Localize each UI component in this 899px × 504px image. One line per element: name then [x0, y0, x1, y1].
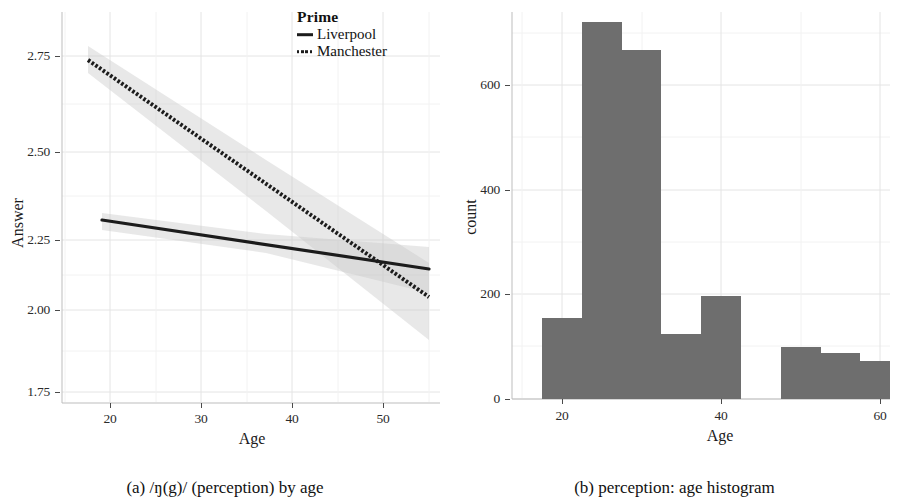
legend-item-liverpool[interactable]: Liverpool: [297, 26, 387, 43]
histogram-bar-30-35[interactable]: [661, 334, 701, 399]
legend-label-manchester: Manchester: [317, 43, 387, 60]
histogram-bar-55-60[interactable]: [860, 361, 890, 399]
panel-a-xtick-mark-1: [110, 403, 111, 408]
panel-a-ci-band-manchester: [88, 46, 429, 340]
panel-a-xtick-mark-2: [201, 403, 202, 408]
histogram-bar-50-55[interactable]: [821, 353, 860, 399]
panel-a-x-axis-title: Age: [182, 430, 322, 448]
panel-a-xtick-50: 50: [376, 411, 389, 427]
panel-a-caption: (a) /ŋ(g)/ (perception) by age: [0, 478, 450, 498]
histogram-bar-15-20[interactable]: [542, 318, 582, 399]
panel-a-legend: Prime Liverpool Manchester: [297, 8, 387, 60]
panel-b-xtick-20: 20: [555, 408, 568, 424]
panel-a-xtick-40: 40: [285, 411, 298, 427]
panel-a-xtick-30: 30: [194, 411, 207, 427]
panel-b-x-axis-title: Age: [650, 427, 790, 445]
legend-label-liverpool: Liverpool: [317, 26, 376, 43]
panel-b-xtick-mark-2: [721, 399, 722, 404]
panel-b-caption: (b) perception: age histogram: [450, 478, 899, 498]
histogram-bar-35-40[interactable]: [701, 296, 741, 399]
panel-a-plot-canvas: [0, 0, 450, 450]
panel-b-histogram: count 600 400 200 0: [450, 0, 899, 504]
panel-b-xtick-mark-3: [880, 399, 881, 404]
figure-container: Answer 2.75 2.50 2.25 2.00 1.75: [0, 0, 899, 504]
legend-item-manchester[interactable]: Manchester: [297, 43, 387, 60]
histogram-bar-25-30[interactable]: [622, 50, 661, 399]
legend-solid-line-icon: [297, 28, 314, 41]
panel-b-xtick-60: 60: [873, 408, 886, 424]
histogram-bar-20-25[interactable]: [582, 22, 622, 399]
panel-a-xtick-mark-4: [383, 403, 384, 408]
histogram-bar-45-50[interactable]: [781, 347, 821, 399]
panel-a-line-chart: Answer 2.75 2.50 2.25 2.00 1.75: [0, 0, 450, 504]
panel-a-xtick-mark-3: [292, 403, 293, 408]
panel-b-xtick-mark-1: [562, 399, 563, 404]
panel-a-xtick-20: 20: [103, 411, 116, 427]
panel-b-xtick-40: 40: [714, 408, 727, 424]
legend-dotted-line-icon: [297, 45, 314, 58]
legend-title: Prime: [297, 8, 387, 25]
